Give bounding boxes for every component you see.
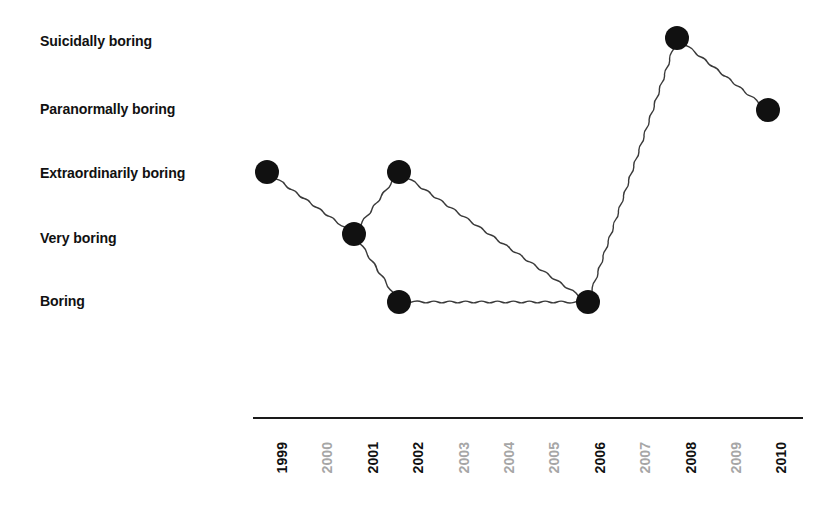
x-axis-tick-2009: 2009 [728, 442, 743, 473]
line-segment-2008-2010 [685, 45, 759, 103]
line-segment-2002-lower-2006 [410, 301, 577, 303]
data-point-group [255, 26, 780, 314]
x-axis-tick-2004: 2004 [501, 442, 516, 473]
data-point-2002-3[interactable] [387, 160, 411, 184]
x-axis-tick-2000: 2000 [319, 442, 334, 473]
data-point-2010-4[interactable] [756, 98, 780, 122]
chart-container: BoringVery boringExtraordinarily boringP… [0, 0, 833, 524]
x-axis-tick-2010: 2010 [773, 442, 788, 473]
series-line-group [276, 45, 759, 303]
data-point-1999-3[interactable] [255, 160, 279, 184]
x-axis-tick-2005: 2005 [546, 442, 561, 473]
data-point-2002-1[interactable] [387, 290, 411, 314]
line-segment-2002-upper-2006 [408, 179, 579, 297]
x-axis-tick-2007: 2007 [637, 442, 652, 473]
x-axis-line [253, 417, 803, 419]
line-segment-2001-2002-upper [361, 181, 392, 226]
x-axis-tick-1999: 1999 [274, 442, 289, 473]
data-point-2001-2[interactable] [342, 222, 366, 246]
x-axis-tick-2001: 2001 [365, 442, 380, 473]
line-segment-2006-2008 [592, 49, 674, 292]
x-axis-tick-2006: 2006 [592, 442, 607, 473]
line-segment-2001-2002-lower [360, 243, 394, 292]
x-axis-tick-2002: 2002 [410, 442, 425, 473]
x-axis-tick-2008: 2008 [683, 442, 698, 473]
line-segment-1999-2001 [276, 179, 346, 227]
x-axis-tick-2003: 2003 [456, 442, 471, 473]
data-point-2006-1[interactable] [576, 290, 600, 314]
data-point-2008-5[interactable] [665, 26, 689, 50]
